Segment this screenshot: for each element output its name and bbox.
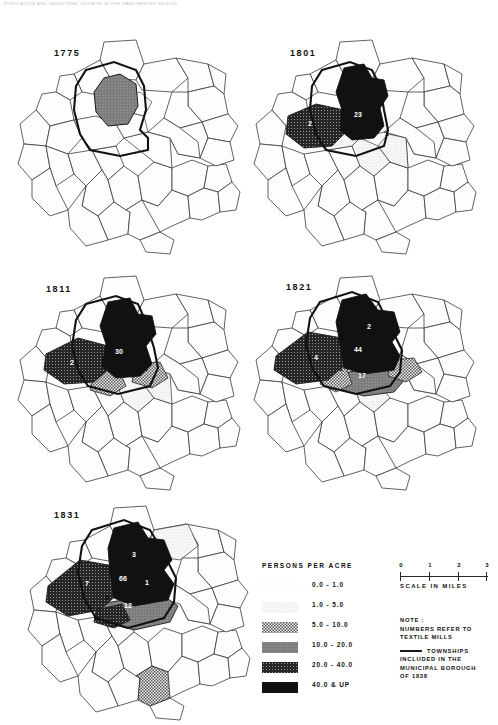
map-panel-1801: 1801 2231 [248,34,480,266]
map-panel-1775: 1775 [12,34,244,266]
legend-label: 20.0 - 40.0 [312,661,353,668]
mill-count-layer: 3166712112 [22,500,254,725]
legend: PERSONS PER ACRE 0.0 - 1.0 1.0 - 5.0 5.0… [262,562,353,698]
note-heading: NOTE : [400,616,498,625]
mill-count-label: 3 [132,551,136,558]
note-townships-row: TOWNSHIPS [400,647,498,656]
note-block: NOTE : NUMBERS REFER TO TEXTILE MILLS TO… [400,616,498,681]
map-panel-1821: 1821 24441171 [248,270,480,502]
scale-tick-2: 2 [457,562,460,568]
page-header: POPULATION AND INDUSTRIAL GROWTH IN THE … [4,1,304,7]
scale-caption: SCALE IN MILES [400,583,492,589]
legend-row: 0.0 - 1.0 [262,578,353,591]
legend-label: 5.0 - 10.0 [312,621,348,628]
mill-count-label: 2 [144,365,148,372]
legend-swatch-5-10 [262,619,298,630]
note-line-5: MUNICIPAL BOROUGH [400,664,498,673]
scale-bar: 0 1 2 3 SCALE IN MILES [400,562,492,589]
scale-bar-graphic [400,572,492,580]
mill-count-label: 7 [85,580,89,587]
legend-label: 40.0 & UP [312,681,350,688]
legend-swatch-10-20 [262,639,298,650]
legend-swatch-40-up [262,679,298,690]
mill-count-label: 1 [160,551,164,558]
note-line-2: TEXTILE MILLS [400,633,498,642]
scale-tick-1: 1 [428,562,431,568]
note-line-6: OF 1838 [400,672,498,681]
mill-count-label: 17 [358,372,366,379]
mill-count-label: 30 [115,348,123,355]
legend-row: 5.0 - 10.0 [262,618,353,631]
mill-count-label: 1 [383,362,387,369]
scale-tick-3: 3 [485,562,488,568]
note-line-3: TOWNSHIPS [427,648,469,654]
note-line-4: INCLUDED IN THE [400,655,498,664]
mill-count-label: 2 [367,323,371,330]
mill-count-label: 1 [144,593,148,600]
legend-swatch-20-40 [262,659,298,670]
mill-count-label: 2 [308,120,312,127]
legend-swatch-1-5 [262,599,298,610]
mill-count-label: 1 [385,130,389,137]
mill-count-label: 4 [314,354,318,361]
legend-label: 1.0 - 5.0 [312,601,344,608]
mill-count-label: 66 [119,575,127,582]
mill-count-label: 2 [70,359,74,366]
mill-count-layer: 2302 [12,270,244,502]
mill-count-label: 23 [354,111,362,118]
legend-row: 40.0 & UP [262,678,353,691]
map-panel-1831: 1831 3166712112 [22,500,254,725]
legend-title: PERSONS PER ACRE [262,562,353,569]
mill-count-label: 1 [339,365,343,372]
scale-tick-0: 0 [399,562,402,568]
legend-swatch-0-1 [262,579,298,590]
map-year-label: 1775 [54,48,80,58]
mill-count-layer: 24441171 [248,270,480,502]
mill-count-label: 2 [105,594,109,601]
mill-count-label: 12 [124,602,132,609]
mill-count-label: 1 [145,579,149,586]
borough-line-symbol [400,650,422,652]
note-line-1: NUMBERS REFER TO [400,625,498,634]
legend-row: 20.0 - 40.0 [262,658,353,671]
mill-count-label: 44 [354,346,362,353]
legend-row: 1.0 - 5.0 [262,598,353,611]
mill-count-layer: 2231 [248,34,480,266]
legend-row: 10.0 - 20.0 [262,638,353,651]
legend-label: 0.0 - 1.0 [312,581,344,588]
map-panel-1811: 1811 2302 [12,270,244,502]
scale-tick-labels: 0 1 2 3 [400,562,492,571]
legend-label: 10.0 - 20.0 [312,641,353,648]
